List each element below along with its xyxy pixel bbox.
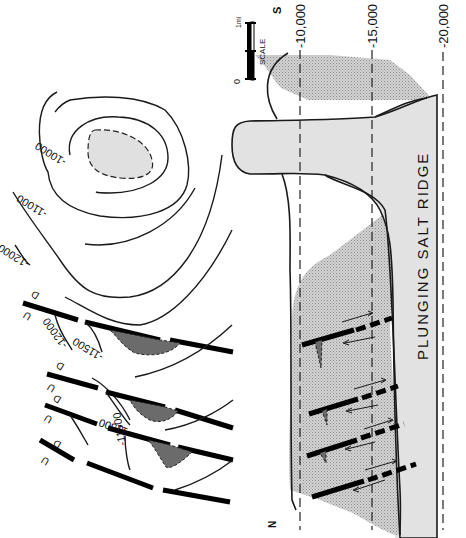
scale-bar: SCALE 0 1mi [232, 16, 267, 84]
contour-11500-c-tail [175, 460, 233, 490]
depth-label-10000: -10,000 [293, 4, 308, 48]
fault-3-up: U [42, 412, 54, 425]
fault-2-up: U [45, 381, 57, 394]
contour-label-12000-b: -12000 [40, 316, 69, 351]
fault-3-down: D [51, 392, 63, 405]
map-fault-4: D U [39, 437, 230, 502]
fault-1-down: D [29, 288, 41, 301]
fault-1-up: U [21, 309, 33, 322]
scale-end: 1mi [235, 16, 242, 28]
fault-4-up: U [39, 454, 51, 467]
diagram-canvas: -10,000 -15,000 -20,000 S N PLUNGING SAL… [0, 0, 466, 538]
contour-label-11000: -11000 [14, 193, 49, 221]
map-view: -10000 -11000 -12000 D U -11500 -12000 [0, 92, 233, 502]
structural-high [88, 130, 153, 179]
section-title: PLUNGING SALT RIDGE [414, 152, 431, 360]
scale-label: SCALE [258, 39, 267, 65]
fault-2-down: D [54, 359, 66, 372]
contour-label-11500-a: -11500 [70, 336, 105, 364]
fault-4-down: D [51, 437, 63, 450]
cross-section: -10,000 -15,000 -20,000 S N PLUNGING SAL… [232, 4, 451, 538]
depth-label-20000: -20,000 [436, 4, 451, 48]
direction-north: N [267, 521, 278, 528]
direction-south: S [271, 7, 283, 14]
contour-label-10000: -10000 [33, 140, 68, 168]
depth-label-15000: -15,000 [365, 4, 380, 48]
scale-start: 0 [232, 79, 242, 84]
